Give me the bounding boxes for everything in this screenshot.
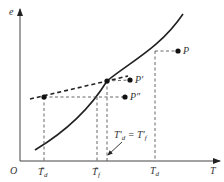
annotation-right-sub: f	[145, 134, 147, 142]
annotation-arrow	[108, 142, 122, 155]
guide-h-p1	[107, 80, 130, 81]
tick-sub: d	[156, 170, 160, 178]
point-intersection	[104, 78, 109, 83]
tick-sub: f	[98, 171, 100, 179]
tick-sub: d	[44, 171, 48, 179]
point-p-double-prime	[122, 94, 127, 99]
annotation-eq: =	[125, 129, 137, 140]
annotation-right: T′	[137, 129, 145, 140]
label-p-prime: P′	[135, 75, 143, 85]
point-p-prime	[127, 77, 132, 82]
tick-tf-star: T*f	[92, 166, 100, 179]
diagram-canvas	[0, 0, 224, 182]
annotation-left: T′	[114, 129, 122, 140]
tick-td-star: T*d	[38, 166, 48, 179]
annotation-equal: T′d = T′f	[114, 130, 147, 142]
label-p-double-prime: P″	[130, 92, 140, 102]
point-left	[41, 94, 46, 99]
y-axis-label: e	[9, 7, 13, 17]
label-p: P	[183, 46, 189, 56]
x-axis-label: T	[210, 166, 216, 176]
point-p	[175, 48, 180, 53]
origin-label: O	[10, 166, 17, 176]
tick-td: Td	[150, 166, 159, 178]
